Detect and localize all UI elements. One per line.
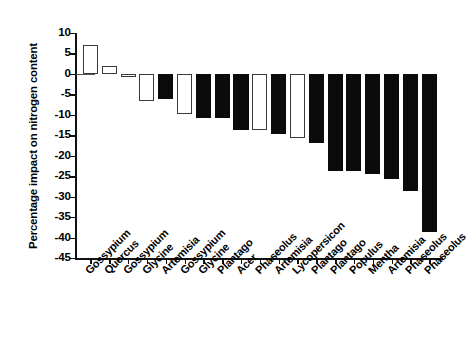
- x-axis-tick: [185, 258, 186, 264]
- bar: [177, 74, 192, 114]
- bar: [290, 74, 305, 138]
- bar: [365, 74, 380, 174]
- x-axis-tick: [316, 258, 317, 264]
- bar: [121, 74, 136, 77]
- y-axis-tick-label: -40: [54, 230, 71, 245]
- y-axis-title: Percentage impact on nitrogen content: [23, 21, 43, 271]
- bar: [102, 66, 117, 74]
- y-axis-tick-label: -30: [54, 189, 71, 204]
- x-axis-tick: [429, 258, 430, 264]
- x-axis-tick: [260, 258, 261, 264]
- x-axis-tick: [354, 258, 355, 264]
- x-axis-tick: [410, 258, 411, 264]
- bar: [158, 74, 173, 99]
- y-axis-tick-label: -35: [54, 209, 71, 224]
- x-axis-tick: [109, 258, 110, 264]
- y-axis-tick-label: 5: [65, 45, 71, 60]
- x-axis-tick: [90, 258, 91, 264]
- y-axis-tick-label: -5: [61, 86, 71, 101]
- zero-baseline: [75, 74, 95, 75]
- x-axis-tick: [335, 258, 336, 264]
- y-axis-line: [75, 33, 77, 259]
- bar: [422, 74, 437, 232]
- x-axis-tick: [373, 258, 374, 264]
- x-axis-tick: [279, 258, 280, 264]
- y-axis-tick-label: -25: [54, 168, 71, 183]
- bar: [83, 45, 98, 74]
- bar: [139, 74, 154, 101]
- plot-area: 1050-5-10-15-20-25-30-35-40-45: [75, 33, 443, 258]
- y-axis-tick-label: 0: [65, 66, 71, 81]
- x-axis-tick: [297, 258, 298, 264]
- x-axis-tick: [147, 258, 148, 264]
- y-axis-tick-label: -45: [54, 250, 71, 265]
- x-axis-tick: [392, 258, 393, 264]
- bar: [328, 74, 343, 171]
- bar: [215, 74, 230, 118]
- bar: [384, 74, 399, 179]
- y-axis-tick-label: -15: [54, 127, 71, 142]
- bar: [196, 74, 211, 118]
- bar: [403, 74, 418, 191]
- x-axis-tick: [128, 258, 129, 264]
- x-axis-tick: [222, 258, 223, 264]
- x-axis-tick: [203, 258, 204, 264]
- y-axis-tick-label: 10: [58, 25, 71, 40]
- y-axis-tick-label: -20: [54, 148, 71, 163]
- bar: [252, 74, 267, 130]
- bar: [346, 74, 361, 171]
- x-axis-tick: [241, 258, 242, 264]
- y-axis-tick-label: -10: [54, 107, 71, 122]
- bar: [271, 74, 286, 135]
- bar: [233, 74, 248, 130]
- bar: [309, 74, 324, 143]
- x-axis-tick: [166, 258, 167, 264]
